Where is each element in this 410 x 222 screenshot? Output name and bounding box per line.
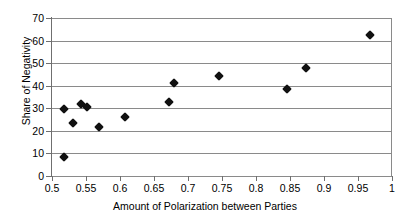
- x-axis-tick: [358, 176, 359, 181]
- x-axis-tick: [120, 176, 121, 181]
- x-axis-tick: [52, 176, 53, 181]
- data-point: [164, 97, 174, 107]
- x-axis-tick: [222, 176, 223, 181]
- gridline: [52, 131, 392, 132]
- gridline: [52, 86, 392, 87]
- y-axis-tick-label: 40: [4, 81, 44, 91]
- y-axis-tick: [46, 108, 52, 109]
- data-point: [301, 63, 311, 73]
- x-axis-tick: [86, 176, 87, 181]
- gridline: [52, 18, 392, 19]
- y-axis-tick-label: 10: [4, 148, 44, 158]
- x-axis-tick: [154, 176, 155, 181]
- y-axis-tick: [46, 41, 52, 42]
- data-point: [59, 104, 69, 114]
- y-axis-tick-label: 0: [4, 171, 44, 181]
- data-point: [169, 79, 179, 89]
- y-axis-tick: [46, 153, 52, 154]
- y-axis-tick: [46, 86, 52, 87]
- y-axis-tick: [46, 63, 52, 64]
- gridline: [52, 63, 392, 64]
- x-axis-title: Amount of Polarization between Parties: [0, 200, 410, 212]
- data-point: [120, 112, 130, 122]
- plot-area: [52, 18, 392, 176]
- y-axis-tick-label: 70: [4, 13, 44, 23]
- y-axis-tick: [46, 131, 52, 132]
- x-axis-tick: [324, 176, 325, 181]
- x-axis-tick: [188, 176, 189, 181]
- x-axis-tick: [392, 176, 393, 181]
- y-axis-tick-label: 30: [4, 103, 44, 113]
- gridline: [52, 41, 392, 42]
- x-axis-tick: [290, 176, 291, 181]
- y-axis-tick: [46, 18, 52, 19]
- scatter-chart: Share of Negativity Amount of Polarizati…: [0, 0, 410, 222]
- data-point: [214, 72, 224, 82]
- gridline: [52, 153, 392, 154]
- data-point: [82, 102, 92, 112]
- y-axis-tick-label: 20: [4, 126, 44, 136]
- y-axis-tick-label: 50: [4, 58, 44, 68]
- data-point: [365, 30, 375, 40]
- gridline: [52, 108, 392, 109]
- x-axis-tick: [256, 176, 257, 181]
- plot-right-frame: [391, 18, 392, 176]
- x-axis-tick-label: 1: [372, 183, 410, 194]
- y-axis-tick-label: 60: [4, 36, 44, 46]
- data-point: [68, 118, 78, 128]
